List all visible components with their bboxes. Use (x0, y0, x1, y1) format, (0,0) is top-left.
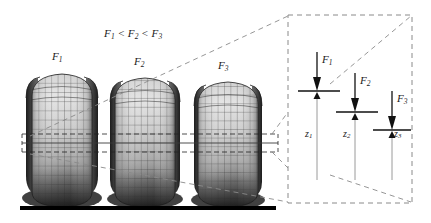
inset-force-2-label: F2 (360, 74, 370, 88)
tire-1-force-label: F1 (52, 50, 62, 64)
tire-3-force-label: F3 (218, 59, 228, 73)
inset-deflection-3-label: z3 (394, 128, 401, 139)
figure-canvas (0, 0, 431, 223)
tire-deflection-figure: F1 < F2 < F3 F1 F2 F3 F1 F2 F3 z1 z2 z3 (0, 0, 431, 223)
inset-force-arrow-1 (298, 52, 340, 180)
tire-2-force-label: F2 (134, 55, 144, 69)
force-relation-title: F1 < F2 < F3 (104, 27, 163, 41)
ground-line (20, 206, 276, 210)
inset-deflection-1-label: z1 (305, 128, 312, 139)
tire-1 (22, 72, 102, 210)
inset-force-arrow-2 (336, 73, 378, 180)
inset-box (288, 15, 412, 203)
inset-force-1-label: F1 (322, 53, 332, 67)
inset-force-3-label: F3 (397, 92, 407, 106)
inset-deflection-2-label: z2 (343, 128, 350, 139)
